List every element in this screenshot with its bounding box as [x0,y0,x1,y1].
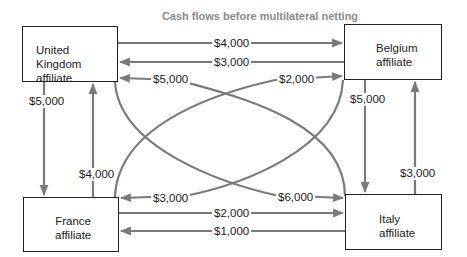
node-italy-label-2: affiliate [379,226,415,240]
amount-uk-to-france: $5,000 [27,95,66,108]
node-belgium-label-2: affiliate [376,55,418,69]
diagram-title: Cash flows before multilateral netting [140,10,380,22]
amount-france-to-italy: $2,000 [212,207,251,220]
node-uk-affiliate: United Kingdom affiliate [22,26,118,82]
node-uk-label-1: United Kingdom [36,43,117,71]
node-italy-label-1: Italy [379,212,415,226]
amount-italy-to-uk: $5,000 [151,73,190,86]
node-france-label-1: France [55,214,91,228]
node-uk-label-2: affiliate [36,71,117,85]
amount-belgium-to-france: $3,000 [151,192,190,205]
amount-belgium-to-uk: $3,000 [212,56,251,69]
amount-italy-to-france: $1,000 [212,225,251,238]
amount-france-to-uk: $4,000 [77,168,116,181]
amount-italy-to-belgium: $3,000 [398,167,437,180]
arrow-italy-to-uk [120,78,345,196]
node-france-label-2: affiliate [55,228,91,242]
arrow-belgium-to-france [121,80,343,198]
node-belgium-label-1: Belgium [376,41,418,55]
node-italy-affiliate: Italy affiliate [345,194,442,250]
amount-belgium-to-italy: $5,000 [348,93,387,106]
arrow-uk-to-italy [115,81,343,198]
amount-uk-to-belgium: $4,000 [212,37,251,50]
amount-france-to-belgium: $2,000 [277,73,316,86]
node-france-affiliate: France affiliate [23,197,119,252]
node-belgium-affiliate: Belgium affiliate [344,24,442,80]
amount-uk-to-italy: $6,000 [276,191,315,204]
